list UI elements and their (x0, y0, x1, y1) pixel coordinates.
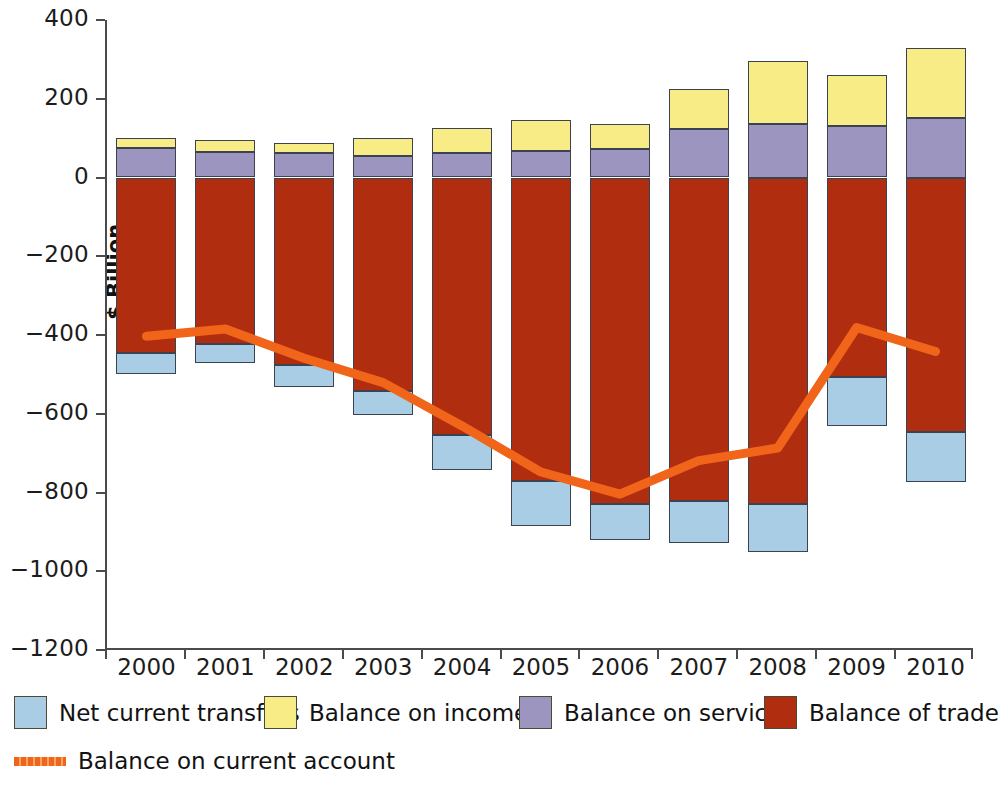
bar-segment[interactable] (511, 120, 571, 151)
legend-item[interactable]: Balance on current account (14, 748, 395, 774)
x-tick-label: 2004 (423, 654, 502, 680)
plot-area: $ Billion 4002000−200−400−600−800−1000−1… (105, 20, 973, 650)
y-tick (96, 649, 105, 651)
y-tick-label: 200 (44, 84, 89, 110)
bar-segment[interactable] (353, 178, 413, 391)
bar-segment[interactable] (511, 151, 571, 178)
bar-segment[interactable] (195, 140, 255, 152)
bar-segment[interactable] (669, 501, 729, 544)
bar-segment[interactable] (353, 156, 413, 177)
bar-segment[interactable] (827, 377, 887, 426)
bar-segment[interactable] (511, 178, 571, 482)
bar-segment[interactable] (195, 344, 255, 363)
bar-segment[interactable] (827, 126, 887, 178)
bar-segment[interactable] (274, 153, 334, 177)
bar-segment[interactable] (827, 75, 887, 125)
legend-color-swatch (519, 696, 552, 729)
bar-group[interactable] (432, 20, 492, 650)
x-tick-label: 2001 (186, 654, 265, 680)
bar-group[interactable] (906, 20, 966, 650)
legend-label: Balance on income (309, 700, 528, 726)
bar-group[interactable] (669, 20, 729, 650)
bar-segment[interactable] (195, 178, 255, 344)
bar-segment[interactable] (669, 178, 729, 501)
bar-segment[interactable] (432, 153, 492, 177)
legend-item[interactable]: Balance on services (519, 696, 793, 729)
bar-segment[interactable] (274, 365, 334, 387)
x-tick-label: 2006 (580, 654, 659, 680)
x-tick-label: 2002 (265, 654, 344, 680)
bar-segment[interactable] (827, 178, 887, 377)
bar-segment[interactable] (353, 138, 413, 156)
legend-color-swatch (14, 696, 47, 729)
bar-segment[interactable] (511, 481, 571, 525)
bar-segment[interactable] (116, 148, 176, 177)
bar-segment[interactable] (748, 61, 808, 125)
legend-color-swatch (264, 696, 297, 729)
bar-segment[interactable] (116, 353, 176, 374)
bar-group[interactable] (353, 20, 413, 650)
bar-segment[interactable] (590, 504, 650, 541)
bar-segment[interactable] (906, 118, 966, 177)
bar-segment[interactable] (669, 89, 729, 130)
y-tick (96, 255, 105, 257)
legend-label: Balance on current account (78, 748, 395, 774)
y-tick-label: −600 (25, 399, 89, 425)
y-tick (96, 177, 105, 179)
bar-segment[interactable] (590, 124, 650, 150)
bar-group[interactable] (748, 20, 808, 650)
y-tick (96, 19, 105, 21)
y-tick-label: −1000 (10, 556, 89, 582)
bar-segment[interactable] (906, 48, 966, 119)
bar-segment[interactable] (116, 138, 176, 148)
bar-segment[interactable] (274, 178, 334, 365)
legend-label: Balance of trade (809, 700, 999, 726)
y-tick-label: −400 (25, 320, 89, 346)
bar-group[interactable] (511, 20, 571, 650)
x-tick-label: 2003 (344, 654, 423, 680)
bar-segment[interactable] (274, 143, 334, 154)
chart-legend: Net current transfersBalance on incomeBa… (0, 696, 977, 791)
legend-color-swatch (764, 696, 797, 729)
y-tick (96, 334, 105, 336)
bar-segment[interactable] (353, 391, 413, 416)
y-tick-label: 400 (44, 5, 89, 31)
bar-segment[interactable] (432, 178, 492, 436)
legend-label: Balance on services (564, 700, 793, 726)
bar-segment[interactable] (748, 178, 808, 505)
bar-segment[interactable] (116, 178, 176, 354)
x-tick-label: 2000 (107, 654, 186, 680)
y-tick (96, 98, 105, 100)
y-tick (96, 570, 105, 572)
legend-item[interactable]: Net current transfers (14, 696, 300, 729)
x-tick-label: 2008 (738, 654, 817, 680)
bar-segment[interactable] (590, 149, 650, 177)
y-axis-line (105, 20, 107, 650)
legend-line-swatch (14, 757, 66, 766)
bar-group[interactable] (116, 20, 176, 650)
x-tick-label: 2009 (817, 654, 896, 680)
bar-group[interactable] (827, 20, 887, 650)
y-tick (96, 413, 105, 415)
x-tick-label: 2007 (659, 654, 738, 680)
bar-segment[interactable] (906, 432, 966, 482)
bar-group[interactable] (195, 20, 255, 650)
y-tick-label: −800 (25, 478, 89, 504)
legend-item[interactable]: Balance on income (264, 696, 528, 729)
bar-segment[interactable] (195, 152, 255, 177)
x-tick-label: 2005 (502, 654, 581, 680)
bar-segment[interactable] (669, 129, 729, 177)
bar-segment[interactable] (748, 504, 808, 551)
bar-segment[interactable] (748, 124, 808, 177)
y-tick-label: −1200 (10, 635, 89, 661)
bar-group[interactable] (590, 20, 650, 650)
bar-segment[interactable] (590, 178, 650, 504)
bar-segment[interactable] (432, 128, 492, 153)
bar-group[interactable] (274, 20, 334, 650)
legend-item[interactable]: Balance of trade (764, 696, 999, 729)
y-tick (96, 492, 105, 494)
bar-segment[interactable] (432, 435, 492, 470)
bar-segment[interactable] (906, 178, 966, 432)
x-tick-label: 2010 (896, 654, 975, 680)
